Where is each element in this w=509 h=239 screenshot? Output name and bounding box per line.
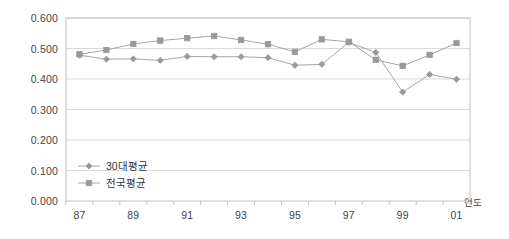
data-point-marker	[292, 49, 297, 54]
data-point-marker	[104, 47, 109, 52]
data-point-marker	[427, 52, 432, 57]
data-point-marker	[454, 40, 459, 45]
data-point-marker	[400, 63, 405, 68]
gridlines	[66, 18, 470, 171]
data-point-marker	[453, 76, 459, 82]
data-series-layer	[76, 33, 459, 95]
data-point-marker	[211, 54, 217, 60]
data-point-marker	[131, 41, 136, 46]
x-tick-marks	[66, 201, 470, 205]
data-point-marker	[238, 37, 243, 42]
data-point-marker	[427, 71, 433, 77]
data-point-marker	[185, 35, 190, 40]
data-point-marker	[157, 57, 163, 63]
data-point-marker	[400, 89, 406, 95]
series-line	[79, 36, 456, 66]
plot-area: 30대평균전국평균	[0, 0, 509, 239]
data-series	[77, 33, 459, 68]
data-point-marker	[184, 53, 190, 59]
data-point-marker	[103, 56, 109, 62]
line-chart: 0.0000.1000.2000.3000.4000.5000.600 8789…	[0, 0, 509, 239]
data-point-marker	[211, 33, 216, 38]
data-point-marker	[238, 54, 244, 60]
data-point-marker	[373, 57, 378, 62]
data-point-marker	[77, 52, 82, 57]
data-point-marker	[373, 49, 379, 55]
data-point-marker	[319, 37, 324, 42]
data-point-marker	[86, 180, 91, 185]
legend-entry-label: 30대평균	[106, 160, 148, 172]
data-point-marker	[158, 38, 163, 43]
data-point-marker	[130, 56, 136, 62]
data-point-marker	[265, 42, 270, 47]
data-point-marker	[292, 62, 298, 68]
legend-entry-label: 전국평균	[106, 177, 146, 189]
data-point-marker	[86, 163, 92, 169]
data-point-marker	[346, 39, 351, 44]
data-point-marker	[265, 55, 271, 61]
chart-legend: 30대평균전국평균	[78, 160, 148, 189]
